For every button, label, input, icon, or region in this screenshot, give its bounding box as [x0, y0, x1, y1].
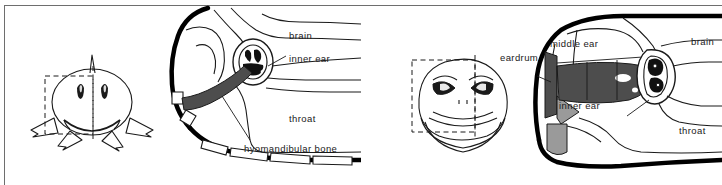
frog-inner-ear-capsule	[637, 50, 675, 104]
label-hyomandibular-bone: hyomandibular bone	[244, 143, 337, 154]
eardrum-shape	[545, 52, 557, 118]
panel-fish: brain inner ear throat hyomandibular bon…	[0, 0, 361, 185]
shark-frontal-head	[31, 55, 153, 151]
frog-panel-artwork	[361, 0, 722, 185]
label-middle-ear: middle ear	[550, 38, 598, 49]
label-inner-ear: inner ear	[559, 100, 600, 111]
panel-frog: eardrum middle ear brain inner ear throa…	[361, 0, 722, 185]
label-inner-ear: inner ear	[289, 53, 330, 64]
comparative-ear-anatomy-figure: brain inner ear throat hyomandibular bon…	[0, 0, 722, 185]
label-brain: brain	[289, 30, 312, 41]
label-eardrum: eardrum	[500, 52, 538, 63]
fish-panel-artwork	[0, 0, 361, 185]
label-brain: brain	[691, 36, 714, 47]
leader-inner-ear-frog	[627, 100, 649, 116]
columella-foot-grey	[547, 124, 567, 155]
leader-hyomandibular	[222, 96, 250, 140]
hyomandibular-bone-shape	[182, 66, 252, 110]
label-throat: throat	[679, 125, 706, 136]
frog-frontal-head	[419, 59, 507, 152]
shark-cross-section	[172, 8, 361, 165]
label-throat: throat	[289, 113, 316, 124]
